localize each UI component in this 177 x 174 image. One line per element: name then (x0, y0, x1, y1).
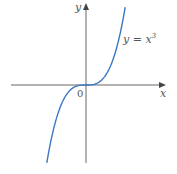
x-axis-label: x (160, 88, 166, 99)
cubic-function-plot (0, 0, 177, 174)
equation-base: y = x (123, 33, 152, 46)
y-axis-arrow-icon (83, 3, 89, 10)
origin-label: 0 (77, 89, 83, 99)
equation-exponent: 3 (152, 32, 156, 40)
equation-label: y = x3 (123, 33, 156, 45)
y-axis-label: y (75, 2, 81, 13)
